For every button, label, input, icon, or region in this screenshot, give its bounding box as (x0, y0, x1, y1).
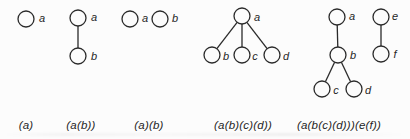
caption-3: (a)(b) (134, 119, 163, 131)
caption-4: (a(b)(c)(d)) (214, 119, 272, 131)
node-circle-b (70, 48, 86, 64)
node-label-a: a (91, 11, 97, 23)
node-circle-a (234, 8, 250, 24)
node-label-a: a (349, 10, 355, 22)
diagram-3: ab (122, 11, 178, 27)
scan-artifact (4, 133, 406, 136)
node-label-a: a (39, 12, 45, 24)
edge-b-d (341, 62, 350, 82)
edge-a-b (217, 22, 237, 48)
node-label-e: e (392, 10, 398, 22)
node-label-b: b (350, 49, 356, 61)
edge-a-d (247, 22, 267, 48)
diagram-5: abcdef (314, 9, 398, 97)
node-circle-b (204, 47, 220, 63)
node-circle-b (152, 11, 168, 27)
node-circle-f (373, 46, 389, 62)
caption-1: (a) (19, 119, 34, 131)
node-circle-b (330, 47, 346, 63)
forest-figure: aabababcdabcdef (a) (a(b)) (a)(b) (a(b)(… (0, 0, 410, 139)
node-label-b: b (91, 50, 97, 62)
node-label-d: d (365, 84, 372, 96)
node-label-b: b (223, 50, 229, 62)
node-label-f: f (393, 48, 397, 60)
node-circle-a (70, 10, 86, 26)
node-label-c: c (333, 84, 339, 96)
node-circle-d (346, 81, 362, 97)
diagram-2: ab (70, 10, 97, 64)
node-circle-a (18, 11, 34, 27)
node-circle-c (234, 47, 250, 63)
edge-b-c (325, 62, 334, 82)
node-label-a: a (142, 12, 148, 24)
node-circle-c (314, 81, 330, 97)
caption-5: (a(b(c)(d)))(e(f)) (297, 119, 381, 131)
node-label-a: a (254, 11, 260, 23)
node-label-c: c (252, 50, 258, 62)
node-label-d: d (283, 50, 290, 62)
edge-a-b (337, 25, 338, 47)
node-label-b: b (172, 12, 178, 24)
node-circle-a (122, 11, 138, 27)
diagram-4: abcd (204, 8, 290, 63)
diagram-1: a (18, 11, 45, 27)
node-circle-a (329, 9, 345, 25)
node-circle-e (373, 9, 389, 25)
caption-2: (a(b)) (66, 119, 95, 131)
node-circle-d (264, 47, 280, 63)
